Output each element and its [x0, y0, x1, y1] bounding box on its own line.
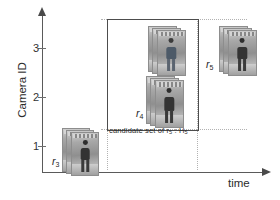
- tracklet-card: [157, 30, 186, 76]
- tracklet-stack-candidate-camera3: [148, 26, 192, 74]
- tracklet-card: [228, 30, 257, 76]
- y-axis-arrow-icon: [38, 7, 46, 16]
- candidate-set-caption-sub1: 5: [169, 129, 172, 135]
- tracklet-card: [155, 80, 184, 128]
- y-tick-1-mark: [38, 146, 46, 147]
- y-tick-label-1: 1: [19, 141, 39, 152]
- y-tick-3-mark: [38, 48, 46, 49]
- tracklet-label-r5: r5: [206, 58, 213, 70]
- tracklet-label-r5-sub: 5: [210, 64, 214, 71]
- tracklet-label-r4-main: r: [136, 107, 140, 119]
- figure-canvas: candidate set of r5 : H5 3 2 1 Camera ID…: [0, 0, 280, 200]
- x-axis-arrow-icon: [262, 168, 271, 176]
- tracklet-label-r3-main: r: [52, 155, 56, 167]
- tracklet-label-r5-main: r: [206, 58, 210, 70]
- y-tick-2-mark: [38, 97, 46, 98]
- tracklet-stack-r4: [146, 76, 190, 126]
- x-axis-title: time: [228, 177, 250, 189]
- y-axis: [42, 14, 43, 172]
- tracklet-label-r3-sub: 3: [56, 161, 60, 168]
- tracklet-card: [71, 132, 99, 176]
- y-axis-title: Camera ID: [16, 45, 28, 135]
- candidate-set-caption-sub2: 5: [185, 129, 188, 135]
- tracklet-label-r4-sub: 4: [140, 113, 144, 120]
- tracklet-stack-r5: [219, 26, 263, 74]
- tracklet-stack-r3: [62, 128, 104, 174]
- tracklet-label-r3: r3: [52, 155, 59, 167]
- tracklet-label-r4: r4: [136, 107, 143, 119]
